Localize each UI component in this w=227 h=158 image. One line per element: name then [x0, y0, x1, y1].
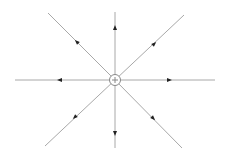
arrow-icon-left [57, 78, 62, 82]
field-line-up-right [119, 15, 184, 76]
electric-field-diagram [0, 0, 227, 158]
arrow-icon-right [167, 78, 172, 82]
positive-charge [110, 75, 121, 86]
field-line-up-left [48, 13, 111, 76]
field-line-down-left [45, 84, 111, 146]
arrow-icon-down [113, 131, 117, 136]
field-line-down-right [119, 84, 182, 148]
arrow-icon-up [113, 25, 117, 30]
